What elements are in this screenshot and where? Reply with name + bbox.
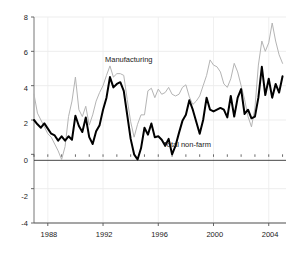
- y-tick-label-2: 2: [24, 119, 28, 128]
- y-tick-label-neg4: -4: [21, 219, 28, 228]
- line-chart: 8 6 4 2 0 -2 -4 1988 1992 1996 2000 2004…: [0, 0, 303, 257]
- x-tick-label-2000: 2000: [206, 230, 223, 239]
- annotation-manufacturing: Manufacturing: [105, 55, 153, 64]
- chart-canvas: 8 6 4 2 0 -2 -4 1988 1992 1996 2000 2004…: [0, 0, 303, 257]
- y-tick-label-8: 8: [24, 13, 28, 22]
- x-tick-label-1996: 1996: [151, 230, 168, 239]
- annotation-total-non-farm: Total non-farm: [163, 140, 211, 149]
- x-tick-label-1992: 1992: [96, 230, 113, 239]
- y-tick-label-6: 6: [24, 48, 28, 57]
- x-tick-label-2004: 2004: [262, 230, 279, 239]
- y-tick-label-4: 4: [24, 84, 28, 93]
- x-tick-label-1988: 1988: [41, 230, 58, 239]
- y-tick-label-0: 0: [24, 156, 28, 165]
- y-tick-label-neg2: -2: [21, 192, 28, 201]
